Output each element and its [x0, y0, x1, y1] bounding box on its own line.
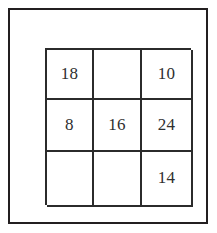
grid-cell-r1c3[interactable]: 10 [142, 50, 193, 100]
cell-value-r3c3: 14 [158, 169, 176, 186]
grid-cell-r3c2[interactable] [94, 152, 142, 207]
grid-cell-r2c2[interactable]: 16 [94, 100, 142, 152]
cell-value-r2c3: 24 [158, 116, 176, 133]
grid-cell-r1c2[interactable] [94, 50, 142, 100]
outer-frame: 18 10 8 16 24 [8, 8, 208, 224]
cell-value-r1c1: 18 [61, 65, 79, 82]
grid-cell-r3c3[interactable]: 14 [142, 152, 193, 207]
cell-value-r2c1: 8 [65, 116, 74, 133]
figure-root: 18 10 8 16 24 [0, 0, 217, 233]
cell-value-r1c3: 10 [158, 65, 176, 82]
cell-value-r2c2: 16 [108, 116, 126, 133]
grid-cell-r2c3[interactable]: 24 [142, 100, 193, 152]
grid-cell-r1c1[interactable]: 18 [47, 50, 94, 100]
grid-cell-r3c1[interactable] [47, 152, 94, 207]
grid-cell-r2c1[interactable]: 8 [47, 100, 94, 152]
number-grid: 18 10 8 16 24 [45, 48, 191, 205]
